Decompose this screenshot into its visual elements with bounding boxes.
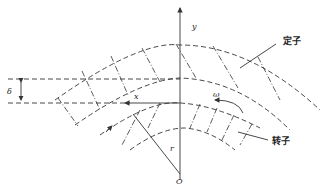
- x-axis-label: x: [134, 92, 139, 101]
- y-axis-label: y: [191, 22, 197, 31]
- rotor-direction-arrow: [106, 126, 112, 132]
- stator-hatch: [142, 48, 160, 82]
- stator-label: 定子: [282, 35, 301, 46]
- stator-hatch: [176, 44, 196, 78]
- rotor-inner-arc: [130, 128, 235, 150]
- rotor-hatch: [122, 110, 140, 145]
- stator-hatch: [58, 98, 78, 126]
- radius-label: r: [170, 144, 175, 153]
- rotor-label: 转子: [272, 135, 290, 146]
- rotation-arrow: [215, 100, 243, 113]
- rotor-hatch: [190, 104, 200, 128]
- stator-hatch: [111, 56, 128, 95]
- stator-outer-arc: [55, 45, 320, 110]
- rotor-pointer-line: [238, 132, 268, 140]
- gap-label: δ: [7, 87, 12, 96]
- rotor-hatch: [222, 115, 234, 140]
- stator-pointer-line: [240, 44, 276, 68]
- rotor-hatch: [207, 108, 217, 132]
- origin-label: O: [176, 177, 183, 186]
- stator-hatch: [258, 57, 280, 100]
- angular-velocity-label: ω: [213, 90, 220, 99]
- diagram-canvas: 定子 转子 y x δ ω r O: [0, 0, 329, 188]
- stator-inner-arc: [75, 78, 290, 130]
- stator-hatch: [82, 71, 100, 110]
- rotor-hatch: [148, 103, 160, 128]
